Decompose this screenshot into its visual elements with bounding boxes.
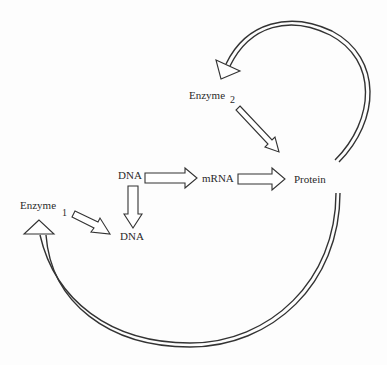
mrna-label: mRNA	[202, 173, 234, 184]
enzyme1-arrowhead-icon	[24, 220, 54, 234]
protein-to-enzyme2-arc	[226, 21, 370, 162]
enzyme2-subscript: 2	[230, 95, 235, 105]
diagram-graphics	[0, 0, 387, 365]
dna-replication-arrow-icon	[124, 186, 142, 228]
feedback-diagram: DNA mRNA Protein DNA Enzyme 1 Enzyme 2	[0, 0, 387, 365]
enzyme1-subscript: 1	[62, 208, 67, 218]
mrna-to-protein-arrow-icon	[238, 168, 285, 190]
enzyme1-label: Enzyme	[20, 200, 56, 211]
enzyme2-to-protein-arrow-icon	[236, 106, 279, 152]
enzyme2-label: Enzyme	[189, 90, 225, 101]
protein-label: Protein	[294, 174, 326, 185]
enzyme2-arrowhead-icon	[216, 60, 240, 79]
enzyme1-to-dna-arrow-icon	[72, 211, 110, 234]
dna-label: DNA	[118, 170, 142, 181]
dna-replicated-label: DNA	[120, 231, 144, 242]
dna-to-mrna-arrow-icon	[145, 168, 197, 188]
